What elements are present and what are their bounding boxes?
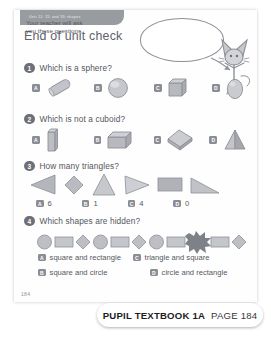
q2-option-c[interactable]: C (154, 128, 210, 152)
pyramid-shape-icon (222, 128, 248, 152)
tilted-cuboid-shape-icon (166, 128, 194, 152)
question-1-number: 1 (24, 63, 35, 74)
speech-bubble-text: Your teacher will ask you these question… (26, 19, 92, 36)
q3-answer-a-badge: A (36, 200, 44, 208)
q4-answer-d-badge: D (150, 269, 158, 277)
question-1-prompt: Which is a sphere? (40, 63, 112, 73)
question-4: 4 Which shapes are hidden? (24, 215, 248, 227)
banner-page-label: PAGE 184 (211, 310, 257, 321)
circle-figure-icon (36, 233, 53, 251)
circle-figure-icon (148, 233, 165, 251)
q1-option-d-badge: D (212, 84, 220, 92)
cuboid-shape-icon (106, 129, 134, 151)
q3-answer-d-label: 0 (185, 199, 189, 208)
question-2-number: 2 (24, 114, 35, 125)
q3-answer-d[interactable]: D 0 (173, 199, 189, 208)
sphere-shape-icon (107, 77, 129, 99)
egg-ovoid-shape-icon (225, 76, 245, 100)
triangle-right-angle-figure-icon (188, 172, 222, 198)
question-3-figures (28, 172, 222, 198)
q2-option-d[interactable]: D (209, 128, 248, 152)
q4-answer-b-label: square and circle (50, 268, 108, 277)
cube-shape-icon (167, 77, 191, 99)
q2-option-a[interactable]: A (32, 127, 94, 153)
q2-option-a-badge: A (32, 136, 40, 144)
q1-option-c[interactable]: C (154, 77, 212, 99)
q3-answer-c-badge: C (128, 200, 136, 208)
q4-answer-a-badge: A (38, 254, 46, 262)
question-4-number: 4 (24, 216, 35, 227)
q4-answer-a[interactable]: A square and rectangle (38, 253, 121, 262)
bottom-banner: PUPIL TEXTBOOK 1A PAGE 184 (97, 303, 263, 327)
q4-answer-a-label: square and rectangle (50, 253, 121, 262)
q4-answer-c[interactable]: C triangle and square (133, 253, 210, 262)
q3-answer-a[interactable]: A 6 (36, 199, 52, 208)
question-2-header: 2 Which is not a cuboid? (24, 113, 248, 125)
page-surface: Unit 11: 2D and 3D shapes End of unit ch… (14, 10, 257, 302)
question-4-figures (36, 229, 247, 255)
q2-option-b[interactable]: B (94, 129, 154, 151)
question-1: 1 Which is a sphere? (24, 62, 248, 74)
q3-answer-d-badge: D (173, 200, 181, 208)
question-2-prompt: Which is not a cuboid? (40, 114, 126, 124)
rectangle-figure-icon (166, 233, 186, 251)
q4-answer-c-label: triangle and square (145, 253, 210, 262)
q3-answer-c-label: 4 (139, 199, 143, 208)
cylinder-rod-shape-icon (45, 78, 75, 98)
triangle-right-figure-icon (122, 172, 152, 198)
rectangle-figure-icon (156, 172, 184, 198)
question-3-prompt: How many triangles? (40, 161, 119, 171)
q1-option-b[interactable]: B (94, 77, 154, 99)
diamond-figure-icon (231, 233, 247, 251)
rectangle-figure-icon (210, 233, 230, 251)
q1-option-d[interactable]: D (212, 76, 245, 100)
q3-answer-c[interactable]: C 4 (128, 199, 144, 208)
question-3-answers: A 6 B 1 C 4 D 0 (36, 199, 189, 208)
q4-answer-b-badge: B (38, 269, 46, 277)
question-3-number: 3 (24, 161, 35, 172)
q3-answer-b-label: 1 (93, 199, 97, 208)
textbook-page: Unit 11: 2D and 3D shapes End of unit ch… (14, 10, 257, 302)
q2-option-d-badge: D (209, 136, 217, 144)
diamond-figure-icon (131, 233, 147, 251)
q1-option-a-badge: A (32, 84, 40, 92)
q4-answer-d[interactable]: D circle and rectangle (150, 268, 227, 277)
triangle-up-figure-icon (90, 172, 118, 198)
q4-answer-d-label: circle and rectangle (162, 268, 228, 277)
q1-option-b-badge: B (94, 84, 102, 92)
circle-figure-icon (92, 233, 109, 251)
q2-option-b-badge: B (94, 136, 102, 144)
banner-book-title: PUPIL TEXTBOOK 1A (103, 310, 205, 321)
hiding-blob-icon (184, 229, 212, 255)
q3-answer-a-label: 6 (48, 199, 52, 208)
q1-option-c-badge: C (154, 84, 162, 92)
rectangle-figure-icon (110, 233, 130, 251)
question-2: 2 Which is not a cuboid? (24, 113, 248, 125)
diamond-figure-icon (75, 233, 91, 251)
q3-answer-b-badge: B (82, 200, 90, 208)
question-4-header: 4 Which shapes are hidden? (24, 215, 248, 227)
speech-bubble (140, 18, 224, 62)
q2-option-c-badge: C (154, 136, 162, 144)
question-2-options: A B C (32, 127, 248, 153)
q4-answer-b[interactable]: B square and circle (38, 268, 150, 277)
question-4-answers-row-1: A square and rectangle C triangle and sq… (38, 253, 210, 262)
question-1-header: 1 Which is a sphere? (24, 62, 248, 74)
q3-answer-b[interactable]: B 1 (82, 199, 98, 208)
question-4-answers-row-2: B square and circle D circle and rectang… (38, 268, 227, 277)
rectangle-figure-icon (54, 233, 74, 251)
question-3: 3 How many triangles? (24, 160, 248, 172)
folio-page-number: 184 (21, 291, 30, 297)
question-4-prompt: Which shapes are hidden? (40, 216, 141, 226)
q4-answer-c-badge: C (133, 254, 141, 262)
tall-cuboid-shape-icon (45, 127, 61, 153)
question-3-header: 3 How many triangles? (24, 160, 248, 172)
q1-option-a[interactable]: A (32, 78, 94, 98)
triangle-left-figure-icon (28, 172, 58, 198)
diamond-figure-icon (62, 172, 86, 198)
question-1-options: A B C (32, 76, 248, 100)
